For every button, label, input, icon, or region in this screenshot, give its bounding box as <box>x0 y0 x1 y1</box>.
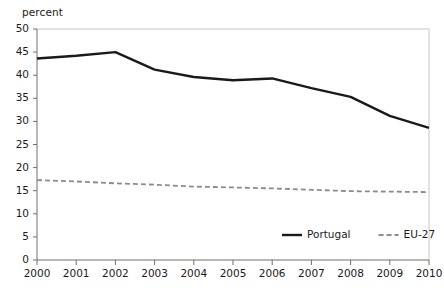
y-axis: 05101520253035404550 <box>16 22 37 265</box>
y-tick-label: 25 <box>16 138 29 150</box>
x-tick-label: 2000 <box>24 267 51 279</box>
series-line-eu-27 <box>37 180 429 192</box>
y-tick-label: 0 <box>22 253 29 265</box>
x-tick-label: 2002 <box>102 267 129 279</box>
y-tick-label: 40 <box>16 68 29 80</box>
y-tick-label: 20 <box>16 161 29 173</box>
line-chart: percent 05101520253035404550 20002001200… <box>0 0 444 290</box>
y-tick-label: 45 <box>16 45 29 57</box>
x-tick-label: 2010 <box>416 267 443 279</box>
x-tick-label: 2004 <box>180 267 207 279</box>
y-tick-label: 15 <box>16 184 29 196</box>
y-tick-label: 50 <box>16 22 29 34</box>
chart-plot-svg: 05101520253035404550 2000200120022003200… <box>0 0 444 290</box>
x-tick-label: 2008 <box>337 267 364 279</box>
x-tick-label: 2007 <box>298 267 325 279</box>
y-tick-label: 35 <box>16 91 29 103</box>
x-tick-label: 2005 <box>220 267 247 279</box>
chart-legend: PortugalEU-27 <box>282 228 435 240</box>
x-tick-label: 2001 <box>63 267 90 279</box>
data-series-group <box>37 52 429 192</box>
legend-label-eu-27: EU-27 <box>404 228 435 240</box>
x-tick-label: 2006 <box>259 267 286 279</box>
legend-label-portugal: Portugal <box>307 228 351 240</box>
y-tick-label: 10 <box>16 207 29 219</box>
plot-frame <box>37 29 429 260</box>
y-tick-label: 30 <box>16 114 29 126</box>
series-line-portugal <box>37 52 429 128</box>
x-axis: 2000200120022003200420052006200720082009… <box>24 260 443 279</box>
y-tick-label: 5 <box>22 230 29 242</box>
x-tick-label: 2003 <box>141 267 168 279</box>
x-tick-label: 2009 <box>376 267 403 279</box>
